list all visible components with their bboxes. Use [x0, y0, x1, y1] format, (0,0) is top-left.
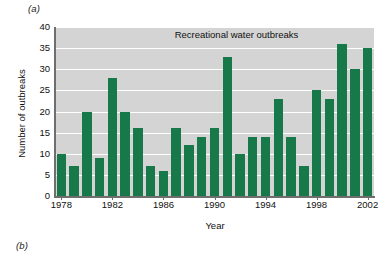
x-tick-label: 2002: [348, 199, 388, 210]
x-axis-title: Year: [55, 220, 375, 231]
x-tick-label: 1986: [143, 199, 183, 210]
panel-label-b: (b): [16, 240, 28, 251]
bar-chart-figure: Number of outbreaks Recreational water o…: [0, 0, 390, 236]
x-tick-mark: [317, 197, 318, 200]
x-tick-mark: [112, 197, 113, 200]
x-tick-label: 1998: [297, 199, 337, 210]
x-tick-mark: [266, 197, 267, 200]
x-tick-label: 1994: [246, 199, 286, 210]
x-tick-mark: [163, 197, 164, 200]
x-tick-mark: [368, 197, 369, 200]
x-tick-mark: [215, 197, 216, 200]
x-tick-mark: [61, 197, 62, 200]
x-tick-labels: 1978198219861990199419982002: [0, 0, 390, 236]
x-tick-label: 1982: [92, 199, 132, 210]
x-tick-label: 1978: [41, 199, 81, 210]
x-tick-label: 1990: [195, 199, 235, 210]
